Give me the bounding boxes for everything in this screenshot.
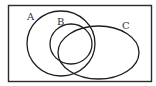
set-a-label: A — [26, 11, 35, 22]
set-c-label: C — [122, 20, 130, 31]
venn-diagram: A B C — [0, 0, 156, 86]
set-b-label: B — [57, 16, 64, 27]
